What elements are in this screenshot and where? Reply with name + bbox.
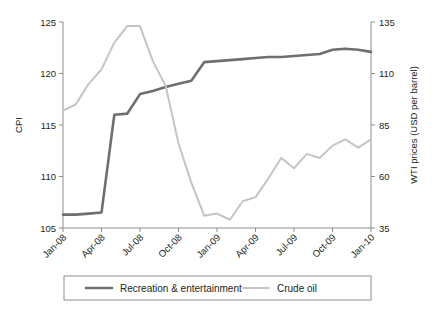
y-axis-left-tick-label: 125 (40, 17, 56, 28)
y-axis-left-tick-label: 105 (40, 223, 56, 234)
legend-label-recreation-entertainment: Recreation & entertainment (120, 283, 242, 294)
x-axis-tick-label: Jul-09 (273, 232, 299, 258)
y-axis-right-tick-label: 85 (379, 120, 390, 131)
x-axis-tick-label: Oct-08 (156, 232, 184, 260)
y-axis-left-title: CPI (13, 117, 24, 133)
y-axis-left-tick-label: 110 (41, 171, 56, 182)
x-axis-tick-label: Jan-08 (40, 232, 68, 260)
y-axis-right-tick-label: 60 (379, 171, 390, 182)
x-axis-tick-label: Jan-09 (194, 232, 222, 260)
x-axis-tick-label: Jul-08 (119, 232, 145, 258)
x-axis-tick-label: Apr-08 (79, 232, 107, 260)
y-axis-left-tick-label: 115 (41, 120, 56, 131)
series-line-crude-oil (63, 26, 371, 220)
y-axis-right-tick-label: 135 (379, 17, 395, 28)
y-axis-right-title: WTI prices (USD per barrel) (408, 66, 419, 184)
x-axis-tick-label: Oct-09 (310, 232, 338, 260)
y-axis-left-tick-label: 120 (40, 68, 56, 79)
line-chart: 105110115120125356085110135Jan-08Apr-08J… (0, 0, 436, 313)
series-line-recreation-entertainment (63, 49, 371, 215)
chart-container: 105110115120125356085110135Jan-08Apr-08J… (0, 0, 436, 313)
y-axis-right-tick-label: 35 (379, 223, 390, 234)
x-axis-tick-label: Apr-09 (233, 232, 261, 260)
legend-label-crude-oil: Crude oil (277, 283, 317, 294)
x-axis-tick-label: Jan-10 (348, 232, 376, 260)
y-axis-right-tick-label: 110 (379, 68, 394, 79)
